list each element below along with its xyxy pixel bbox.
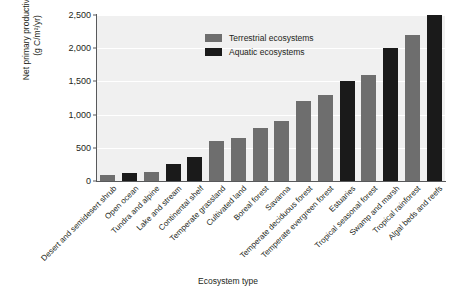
bar (318, 95, 333, 181)
bar (405, 35, 420, 181)
legend-swatch-terrestrial-icon (205, 34, 222, 42)
bar (253, 128, 268, 181)
bar (100, 175, 115, 181)
chart-figure: Net primary productivity (g C/m²/yr) 050… (0, 0, 456, 294)
bar (122, 173, 137, 181)
legend-label-terrestrial: Terrestrial ecosystems (229, 33, 314, 43)
y-axis-title-line2: (g C/m²/yr) (31, 0, 42, 116)
y-axis-title: Net primary productivity (g C/m²/yr) (21, 0, 42, 116)
legend-item-aquatic: Aquatic ecosystems (205, 46, 314, 58)
legend-item-terrestrial: Terrestrial ecosystems (205, 32, 314, 44)
x-axis-tick-label-text: Desert and semidesert shrub (39, 184, 118, 263)
legend-label-aquatic: Aquatic ecosystems (229, 47, 305, 57)
y-axis-tick-mark (93, 15, 97, 16)
bar (296, 101, 311, 181)
bar (231, 138, 246, 181)
x-axis-title: Ecosystem type (0, 276, 456, 286)
bar (274, 121, 289, 181)
y-axis-tick-mark (93, 81, 97, 82)
y-axis-tick-mark (93, 147, 97, 148)
bar (383, 48, 398, 181)
y-axis-tick-mark (93, 114, 97, 115)
y-axis-title-line1: Net primary productivity (21, 0, 31, 80)
bar (340, 81, 355, 181)
x-axis-line (96, 181, 446, 182)
bar (209, 141, 224, 181)
plot-area: 05001,0001,5002,0002,500 Terrestrial eco… (97, 15, 445, 181)
y-axis-tick-mark (93, 48, 97, 49)
bar (144, 172, 159, 181)
bar (361, 75, 376, 181)
x-axis-tick-label: Desert and semidesert shrub (39, 184, 118, 263)
y-axis-tick-mark (93, 181, 97, 182)
bar (187, 157, 202, 181)
chart-legend: Terrestrial ecosystems Aquatic ecosystem… (205, 32, 314, 60)
bar (427, 15, 442, 181)
bar (166, 164, 181, 181)
legend-swatch-aquatic-icon (205, 48, 222, 56)
gridline (97, 15, 445, 16)
